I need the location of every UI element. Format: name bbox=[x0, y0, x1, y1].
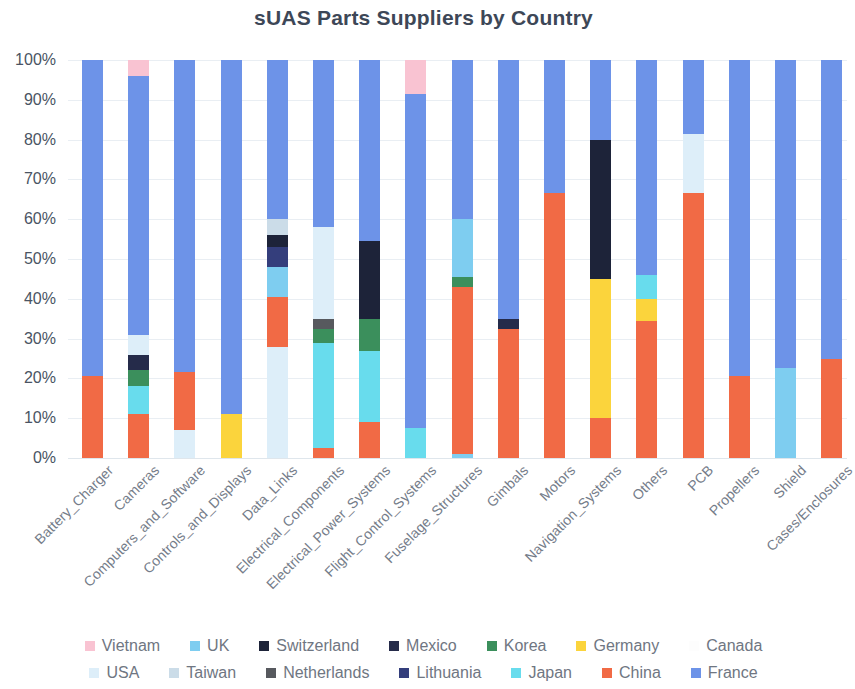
legend-item[interactable]: USA bbox=[89, 664, 139, 682]
bar-segment[interactable] bbox=[174, 60, 195, 372]
bar-segment[interactable] bbox=[683, 60, 704, 134]
bar-segment[interactable] bbox=[452, 219, 473, 277]
bar-segment[interactable] bbox=[82, 376, 103, 458]
bar-segment[interactable] bbox=[128, 414, 149, 458]
bar-segment[interactable] bbox=[636, 275, 657, 299]
bar-stack[interactable] bbox=[452, 60, 473, 458]
bar-segment[interactable] bbox=[683, 134, 704, 194]
legend-item[interactable]: UK bbox=[190, 637, 229, 655]
bar-segment[interactable] bbox=[267, 219, 288, 235]
bar-segment[interactable] bbox=[128, 60, 149, 76]
bar-segment[interactable] bbox=[636, 299, 657, 321]
bar-segment[interactable] bbox=[82, 60, 103, 376]
bar-segment[interactable] bbox=[267, 267, 288, 297]
y-axis-tick-label: 50% bbox=[24, 250, 56, 268]
legend-item[interactable]: Netherlands bbox=[266, 664, 369, 682]
bar-stack[interactable] bbox=[405, 60, 426, 458]
bar-segment[interactable] bbox=[590, 60, 611, 140]
bar-stack[interactable] bbox=[498, 60, 519, 458]
bar-stack[interactable] bbox=[82, 60, 103, 458]
bar-segment[interactable] bbox=[636, 60, 657, 275]
bar-segment[interactable] bbox=[590, 279, 611, 418]
bar-stack[interactable] bbox=[267, 60, 288, 458]
bar-segment[interactable] bbox=[775, 60, 796, 368]
bar-stack[interactable] bbox=[590, 60, 611, 458]
bar-segment[interactable] bbox=[405, 428, 426, 458]
legend-item[interactable]: Lithuania bbox=[399, 664, 481, 682]
bar-segment[interactable] bbox=[128, 335, 149, 355]
bar-segment[interactable] bbox=[313, 343, 334, 448]
bar-segment[interactable] bbox=[359, 351, 380, 423]
legend-item[interactable]: Vietnam bbox=[85, 637, 160, 655]
bar-stack[interactable] bbox=[221, 60, 242, 458]
bar-segment[interactable] bbox=[405, 94, 426, 428]
legend-label: Netherlands bbox=[283, 664, 369, 682]
bar-stack[interactable] bbox=[775, 60, 796, 458]
bar-segment[interactable] bbox=[359, 422, 380, 458]
legend-item[interactable]: Korea bbox=[487, 637, 547, 655]
bar-segment[interactable] bbox=[775, 368, 796, 458]
bar-segment[interactable] bbox=[452, 287, 473, 454]
bar-segment[interactable] bbox=[221, 414, 242, 458]
bar-segment[interactable] bbox=[452, 60, 473, 219]
bar-stack[interactable] bbox=[313, 60, 334, 458]
y-axis-tick-label: 80% bbox=[24, 131, 56, 149]
legend-item[interactable]: Switzerland bbox=[259, 637, 359, 655]
bar-segment[interactable] bbox=[452, 277, 473, 287]
bar-stack[interactable] bbox=[729, 60, 750, 458]
legend-swatch-icon bbox=[169, 668, 179, 678]
legend-item[interactable]: Canada bbox=[689, 637, 762, 655]
bar-segment[interactable] bbox=[313, 60, 334, 227]
legend-swatch-icon bbox=[602, 668, 612, 678]
bar-stack[interactable] bbox=[821, 60, 842, 458]
legend-swatch-icon bbox=[399, 668, 409, 678]
bar-segment[interactable] bbox=[174, 372, 195, 430]
bar-segment[interactable] bbox=[590, 418, 611, 458]
bar-segment[interactable] bbox=[128, 386, 149, 414]
bar-segment[interactable] bbox=[636, 321, 657, 458]
bar-segment[interactable] bbox=[359, 241, 380, 319]
legend-item[interactable]: Germany bbox=[576, 637, 659, 655]
bar-segment[interactable] bbox=[498, 319, 519, 329]
bar-segment[interactable] bbox=[128, 370, 149, 386]
bar-segment[interactable] bbox=[359, 60, 380, 241]
bar-segment[interactable] bbox=[452, 454, 473, 458]
bar-segment[interactable] bbox=[359, 319, 380, 351]
bar-segment[interactable] bbox=[729, 60, 750, 376]
bar-segment[interactable] bbox=[498, 329, 519, 458]
bar-segment[interactable] bbox=[128, 355, 149, 371]
bar-segment[interactable] bbox=[267, 60, 288, 219]
bar-segment[interactable] bbox=[313, 319, 334, 329]
bar-segment[interactable] bbox=[313, 227, 334, 319]
bar-segment[interactable] bbox=[405, 60, 426, 94]
bar-stack[interactable] bbox=[359, 60, 380, 458]
legend-item[interactable]: Taiwan bbox=[169, 664, 236, 682]
bar-segment[interactable] bbox=[498, 60, 519, 319]
bar-segment[interactable] bbox=[174, 430, 195, 458]
bar-stack[interactable] bbox=[544, 60, 565, 458]
bar-segment[interactable] bbox=[544, 193, 565, 458]
bar-segment[interactable] bbox=[128, 76, 149, 335]
bar-segment[interactable] bbox=[267, 247, 288, 267]
bar-segment[interactable] bbox=[313, 448, 334, 458]
bar-segment[interactable] bbox=[544, 60, 565, 193]
bar-stack[interactable] bbox=[636, 60, 657, 458]
bar-segment[interactable] bbox=[729, 376, 750, 458]
legend-item[interactable]: China bbox=[602, 664, 661, 682]
bar-segment[interactable] bbox=[590, 140, 611, 279]
legend-item[interactable]: Japan bbox=[511, 664, 572, 682]
bar-segment[interactable] bbox=[821, 359, 842, 459]
legend-swatch-icon bbox=[89, 668, 99, 678]
bar-segment[interactable] bbox=[313, 329, 334, 343]
bar-stack[interactable] bbox=[128, 60, 149, 458]
bar-segment[interactable] bbox=[267, 297, 288, 347]
bar-segment[interactable] bbox=[821, 60, 842, 359]
bar-stack[interactable] bbox=[174, 60, 195, 458]
bar-segment[interactable] bbox=[267, 347, 288, 458]
bar-stack[interactable] bbox=[683, 60, 704, 458]
bar-segment[interactable] bbox=[267, 235, 288, 247]
bar-segment[interactable] bbox=[683, 193, 704, 458]
bar-segment[interactable] bbox=[221, 60, 242, 414]
legend-item[interactable]: Mexico bbox=[389, 637, 457, 655]
legend-item[interactable]: France bbox=[691, 664, 758, 682]
